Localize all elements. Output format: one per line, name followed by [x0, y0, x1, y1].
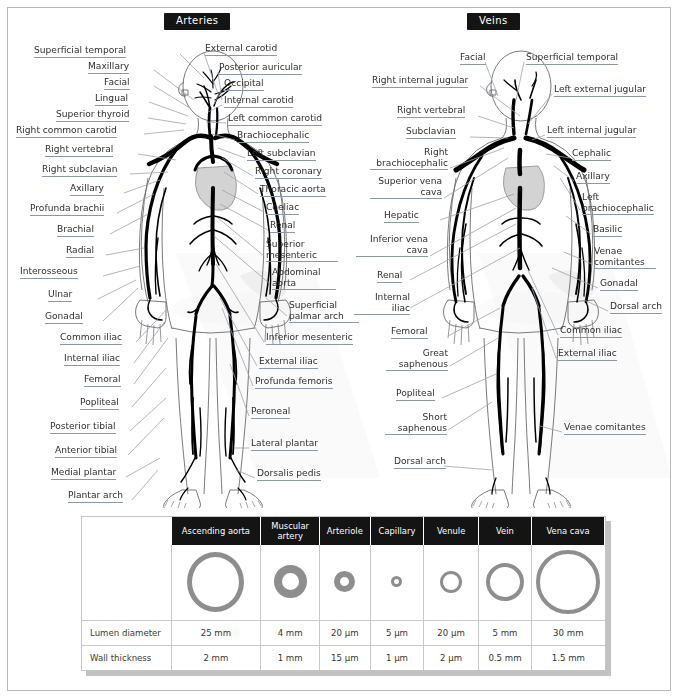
header-vena-cava: Vena cava	[532, 517, 605, 545]
label-anterior-tibial: Anterior tibial	[55, 445, 117, 458]
label-inferior-vena-cava: Inferior vena cava	[356, 234, 428, 258]
label-ulnar: Ulnar	[48, 289, 72, 302]
label-internal-iliac-vein: Internal iliac	[354, 292, 410, 316]
row-label-wall-thickness: Wall thickness	[82, 646, 171, 670]
cell-lumen-ascending-aorta: 25 mm	[171, 621, 261, 646]
table-head: Ascending aorta Muscular artery Arteriol…	[82, 517, 605, 545]
label-superficial-temporal-artery: Superficial temporal	[34, 45, 126, 58]
poster-root: Arteries	[0, 0, 679, 699]
label-inferior-mesenteric: Inferior mesenteric	[266, 332, 353, 345]
label-subclavian-vein: Subclavian	[406, 126, 456, 139]
panel-title-arteries: Arteries	[164, 13, 230, 30]
label-femoral-artery: Femoral	[84, 374, 121, 387]
label-lateral-plantar: Lateral plantar	[251, 438, 318, 451]
label-left-internal-jugular: Left internal jugular	[547, 125, 636, 138]
label-venae-comitantes-leg: Venae comitantes	[564, 422, 646, 435]
ring-row-blank	[82, 545, 171, 621]
label-right-coronary: Right coronary	[255, 166, 322, 179]
label-right-internal-jugular: Right internal jugular	[372, 75, 468, 88]
header-muscular-artery: Muscular artery	[261, 517, 320, 545]
ring-cell-capillary	[370, 545, 424, 621]
label-common-iliac-artery: Common iliac	[60, 332, 122, 345]
cell-wall-vena-cava: 1.5 mm	[532, 646, 605, 670]
label-plantar-arch: Plantar arch	[68, 490, 123, 503]
ring-arteriole	[334, 571, 355, 592]
cell-wall-capillary: 1 µm	[370, 646, 424, 670]
label-right-vertebral-artery: Right vertebral	[45, 144, 113, 157]
label-internal-carotid: Internal carotid	[224, 95, 293, 108]
cell-wall-ascending-aorta: 2 mm	[171, 646, 261, 670]
ring-ascending-aorta	[187, 552, 244, 612]
label-medial-plantar: Medial plantar	[51, 467, 116, 480]
row-label-lumen-diameter: Lumen diameter	[82, 621, 171, 646]
ring-vena-cava	[536, 550, 600, 614]
label-right-vertebral-vein: Right vertebral	[397, 105, 465, 118]
label-renal-artery: Renal	[270, 220, 295, 233]
ring-cell-vein	[478, 545, 531, 621]
label-interosseous: Interosseous	[20, 266, 78, 279]
label-dorsalis-pedis: Dorsalis pedis	[257, 468, 321, 481]
label-facial-vein: Facial	[460, 52, 486, 65]
label-superficial-temporal-vein: Superficial temporal	[526, 52, 618, 65]
vessel-comparison-table: Ascending aorta Muscular artery Arteriol…	[82, 517, 605, 670]
label-left-brachiocephalic: Left brachiocephalic	[582, 192, 654, 216]
header-blank	[82, 517, 171, 545]
label-right-common-carotid: Right common carotid	[16, 125, 117, 138]
label-coeliac: Coeliac	[266, 202, 299, 215]
ring-cell-ascending-aorta	[171, 545, 261, 621]
label-thoracic-aorta: Thoracic aorta	[260, 184, 326, 197]
table-header-row: Ascending aorta Muscular artery Arteriol…	[82, 517, 605, 545]
label-great-saphenous: Great saphenous	[386, 348, 448, 372]
label-profunda-brachii: Profunda brachii	[30, 203, 104, 216]
cell-lumen-arteriole: 20 µm	[320, 621, 371, 646]
ring-cell-muscular-artery	[261, 545, 320, 621]
ring-cell-venule	[424, 545, 478, 621]
panel-title-veins: Veins	[467, 13, 520, 30]
label-right-brachiocephalic: Right brachiocephalic	[370, 147, 448, 171]
label-hepatic-vein: Hepatic	[384, 210, 419, 223]
label-radial: Radial	[66, 245, 94, 258]
label-common-iliac-vein: Common iliac	[560, 325, 622, 338]
label-superficial-palmar-arch: Superficial palmar arch	[289, 300, 359, 324]
label-external-carotid: External carotid	[205, 43, 277, 56]
header-vein: Vein	[478, 517, 531, 545]
header-ascending-aorta: Ascending aorta	[171, 517, 261, 545]
label-axillary-vein: Axillary	[576, 171, 610, 184]
label-gonadal-artery: Gonadal	[45, 311, 83, 324]
label-abdominal-aorta: Abdominal aorta	[272, 267, 336, 291]
ring-capillary	[391, 576, 402, 587]
label-facial-artery: Facial	[104, 77, 130, 90]
label-brachiocephalic-artery: Brachiocephalic	[237, 130, 309, 143]
cell-lumen-venule: 20 µm	[424, 621, 478, 646]
label-cephalic: Cephalic	[572, 148, 611, 161]
label-internal-iliac-artery: Internal iliac	[64, 353, 120, 366]
label-popliteal-artery: Popliteal	[80, 397, 119, 410]
label-maxillary: Maxillary	[88, 61, 129, 74]
ring-cell-arteriole	[320, 545, 371, 621]
poster-frame: Arteries	[7, 7, 671, 691]
label-renal-vein: Renal	[377, 270, 402, 283]
label-external-iliac-artery: External iliac	[259, 356, 318, 369]
table-row-wall-thickness: Wall thickness 2 mm 1 mm 15 µm 1 µm 2 µm…	[82, 646, 605, 670]
ring-venule	[440, 571, 462, 593]
label-axillary-artery: Axillary	[70, 183, 104, 196]
label-right-subclavian-artery: Right subclavian	[42, 164, 117, 177]
label-profunda-femoris: Profunda femoris	[255, 376, 333, 389]
label-lingual: Lingual	[95, 93, 128, 106]
table-row-lumen-diameter: Lumen diameter 25 mm 4 mm 20 µm 5 µm 20 …	[82, 621, 605, 646]
label-left-external-jugular: Left external jugular	[554, 84, 646, 97]
label-basilic: Basilic	[593, 224, 622, 237]
header-capillary: Capillary	[370, 517, 424, 545]
label-left-common-carotid: Left common carotid	[228, 113, 322, 126]
label-short-saphenous: Short saphenous	[385, 412, 447, 436]
header-venule: Venule	[424, 517, 478, 545]
label-posterior-auricular: Posterior auricular	[219, 62, 302, 75]
cell-lumen-muscular-artery: 4 mm	[261, 621, 320, 646]
label-superior-thyroid: Superior thyroid	[56, 109, 129, 122]
label-dorsal-arch-left: Dorsal arch	[394, 456, 446, 469]
label-brachial: Brachial	[57, 224, 94, 237]
label-superior-mesenteric-artery: Superior mesenteric	[266, 239, 338, 263]
cell-wall-muscular-artery: 1 mm	[261, 646, 320, 670]
label-peroneal-artery: Peroneal	[251, 406, 290, 419]
header-arteriole: Arteriole	[320, 517, 371, 545]
